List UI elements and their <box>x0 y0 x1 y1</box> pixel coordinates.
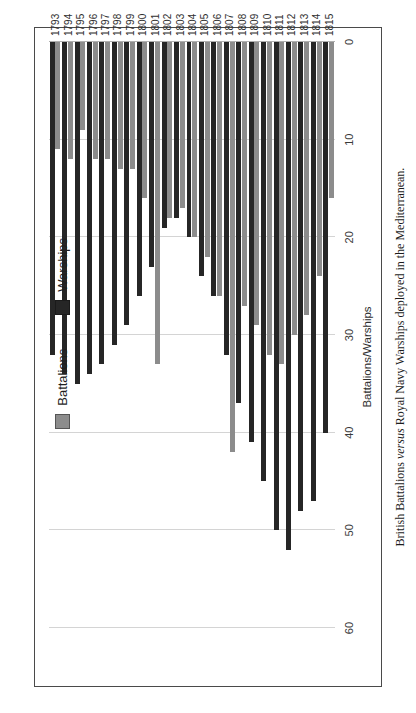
warships-swatch-icon <box>55 299 70 314</box>
bar-battalions-1800[interactable] <box>142 42 147 198</box>
bar-group <box>285 42 297 628</box>
bar-warships-1793[interactable] <box>50 42 55 355</box>
plot-area: 0102030405060 17931794179517961797179817… <box>49 42 335 628</box>
bar-warships-1796[interactable] <box>87 42 92 374</box>
bar-warships-1798[interactable] <box>112 42 117 345</box>
bar-group <box>248 42 260 628</box>
value-tick-50: 50 <box>343 524 355 536</box>
bar-group <box>86 42 98 628</box>
figure-caption: British Battalions versus Royal Navy War… <box>387 0 413 713</box>
bar-battalions-1801[interactable] <box>155 42 160 364</box>
bar-battalions-1805[interactable] <box>205 42 210 257</box>
bar-group <box>198 42 210 628</box>
legend-label-warships: Warships <box>55 237 70 291</box>
bar-warships-1811[interactable] <box>274 42 279 530</box>
value-tick-20: 20 <box>343 231 355 243</box>
bar-group <box>173 42 185 628</box>
bar-battalions-1797[interactable] <box>105 42 110 159</box>
category-label-1794: 1794 <box>62 13 73 35</box>
value-tick-30: 30 <box>343 328 355 340</box>
bar-battalions-1809[interactable] <box>254 42 259 325</box>
bar-group <box>211 42 223 628</box>
legend-item-battalions[interactable]: Battalions <box>55 348 70 428</box>
bar-warships-1807[interactable] <box>224 42 229 355</box>
category-label-1801: 1801 <box>149 13 160 35</box>
value-tick-60: 60 <box>343 621 355 633</box>
category-label-1796: 1796 <box>87 13 98 35</box>
bar-warships-1802[interactable] <box>162 42 167 228</box>
bar-warships-1808[interactable] <box>236 42 241 403</box>
bar-group <box>111 42 123 628</box>
bar-warships-1814[interactable] <box>311 42 316 501</box>
chart-rotor: 0102030405060 17931794179517961797179817… <box>28 21 388 693</box>
bar-battalions-1815[interactable] <box>329 42 334 198</box>
category-label-1798: 1798 <box>112 13 123 35</box>
bar-battalions-1810[interactable] <box>267 42 272 355</box>
figure-container: 0102030405060 17931794179517961797179817… <box>0 0 416 713</box>
bar-group <box>223 42 235 628</box>
bar-battalions-1799[interactable] <box>130 42 135 169</box>
value-tick-40: 40 <box>343 426 355 438</box>
battalions-swatch-icon <box>55 413 70 428</box>
bar-battalions-1793[interactable] <box>55 42 60 149</box>
chart-frame: 0102030405060 17931794179517961797179817… <box>34 27 382 687</box>
category-label-1795: 1795 <box>75 13 86 35</box>
bar-group <box>124 42 136 628</box>
bar-battalions-1804[interactable] <box>192 42 197 237</box>
bar-group <box>74 42 86 628</box>
category-label-1805: 1805 <box>199 13 210 35</box>
caption-emphasis: versus <box>393 428 407 459</box>
bar-warships-1815[interactable] <box>323 42 328 433</box>
category-label-1809: 1809 <box>249 13 260 35</box>
bar-warships-1813[interactable] <box>298 42 303 511</box>
category-label-1799: 1799 <box>124 13 135 35</box>
bar-group <box>310 42 322 628</box>
category-label-1793: 1793 <box>50 13 61 35</box>
category-label-1810: 1810 <box>261 13 272 35</box>
bar-group <box>148 42 160 628</box>
category-axis: 1793179417951796179717981799180018011802… <box>49 0 335 38</box>
bar-warships-1804[interactable] <box>187 42 192 237</box>
category-label-1800: 1800 <box>137 13 148 35</box>
bar-group <box>136 42 148 628</box>
bar-battalions-1807[interactable] <box>230 42 235 452</box>
legend-item-warships[interactable]: Warships <box>55 237 70 314</box>
category-label-1807: 1807 <box>224 13 235 35</box>
bar-group <box>298 42 310 628</box>
bar-warships-1806[interactable] <box>211 42 216 296</box>
bar-warships-1799[interactable] <box>124 42 129 325</box>
category-label-1806: 1806 <box>211 13 222 35</box>
bar-battalions-1811[interactable] <box>279 42 284 364</box>
bar-group <box>260 42 272 628</box>
bar-battalions-1808[interactable] <box>242 42 247 306</box>
bar-battalions-1806[interactable] <box>217 42 222 296</box>
bars-layer <box>49 42 335 628</box>
legend-label-battalions: Battalions <box>55 348 70 405</box>
bar-battalions-1812[interactable] <box>292 42 297 335</box>
category-label-1814: 1814 <box>311 13 322 35</box>
bar-group <box>99 42 111 628</box>
bar-group <box>323 42 335 628</box>
bar-group <box>186 42 198 628</box>
bar-battalions-1802[interactable] <box>167 42 172 218</box>
bar-battalions-1795[interactable] <box>80 42 85 130</box>
bar-warships-1805[interactable] <box>199 42 204 276</box>
bar-warships-1800[interactable] <box>137 42 142 296</box>
bar-battalions-1813[interactable] <box>304 42 309 315</box>
bar-battalions-1814[interactable] <box>317 42 322 276</box>
bar-warships-1810[interactable] <box>261 42 266 482</box>
bar-warships-1797[interactable] <box>99 42 104 364</box>
bar-warships-1812[interactable] <box>286 42 291 550</box>
bar-battalions-1798[interactable] <box>118 42 123 169</box>
bar-battalions-1796[interactable] <box>93 42 98 159</box>
bar-battalions-1803[interactable] <box>180 42 185 208</box>
bar-warships-1801[interactable] <box>149 42 154 267</box>
category-label-1812: 1812 <box>286 13 297 35</box>
bar-warships-1803[interactable] <box>174 42 179 218</box>
category-label-1802: 1802 <box>162 13 173 35</box>
bar-group <box>273 42 285 628</box>
bar-battalions-1794[interactable] <box>68 42 73 159</box>
bar-warships-1809[interactable] <box>249 42 254 442</box>
category-label-1797: 1797 <box>99 13 110 35</box>
bar-warships-1795[interactable] <box>75 42 80 384</box>
